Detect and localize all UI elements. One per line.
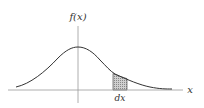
x-axis-label: x: [187, 84, 193, 95]
interval-label: dx: [115, 93, 126, 103]
density-diagram: f(x) x dx: [0, 0, 204, 108]
y-axis-label: f(x): [68, 11, 86, 22]
density-curve: [16, 47, 172, 89]
